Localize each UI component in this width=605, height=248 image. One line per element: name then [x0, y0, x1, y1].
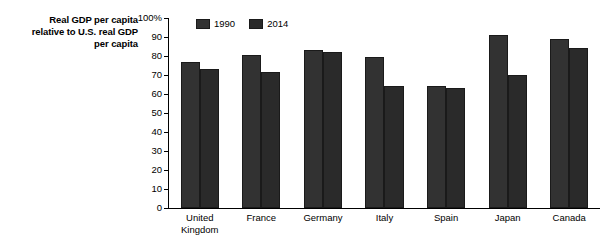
bar[interactable]: [304, 50, 323, 208]
x-axis-labels: UnitedKingdomFranceGermanyItalySpainJapa…: [169, 212, 600, 246]
x-axis-label: France: [231, 212, 293, 224]
chart-figure: Real GDP per capita relative to U.S. rea…: [0, 0, 605, 248]
bar[interactable]: [508, 75, 527, 208]
bar-group: [181, 18, 219, 208]
bar[interactable]: [242, 55, 261, 208]
bar[interactable]: [384, 86, 403, 208]
y-axis-tick-label: 60: [151, 89, 162, 99]
y-axis-tick-label: 80: [151, 51, 162, 61]
x-axis-label: Japan: [477, 212, 539, 224]
y-axis-tick: [164, 132, 168, 133]
y-axis-tick-label: 70: [151, 70, 162, 80]
y-axis-tick-label: 90: [151, 32, 162, 42]
x-axis-label: Italy: [354, 212, 416, 224]
y-axis-title-line-2: relative to U.S. real GDP: [8, 26, 138, 38]
y-axis-tick: [164, 113, 168, 114]
x-axis-label: Canada: [538, 212, 600, 224]
bar[interactable]: [550, 39, 569, 208]
x-axis-label: Spain: [415, 212, 477, 224]
y-axis-tick: [164, 189, 168, 190]
bar[interactable]: [569, 48, 588, 208]
x-axis-label-line: Italy: [354, 212, 416, 224]
x-axis-label-line: Japan: [477, 212, 539, 224]
x-axis-label: UnitedKingdom: [169, 212, 231, 236]
y-axis-tick: [164, 151, 168, 152]
bar[interactable]: [200, 69, 219, 208]
y-axis-tick: [164, 170, 168, 171]
y-axis-title-line-3: per capita: [8, 38, 138, 50]
plot-area: 0102030405060708090100%: [168, 18, 600, 208]
bar-group: [427, 18, 465, 208]
bar[interactable]: [181, 62, 200, 208]
y-axis-tick-label: 30: [151, 146, 162, 156]
y-axis-tick-label: 0: [157, 203, 162, 213]
y-axis-tick: [164, 75, 168, 76]
bar[interactable]: [365, 57, 384, 208]
x-axis-label-line: Canada: [538, 212, 600, 224]
bars-layer: [169, 18, 600, 208]
bar[interactable]: [323, 52, 342, 208]
x-axis-label-line: Spain: [415, 212, 477, 224]
x-axis-label-line: United: [169, 212, 231, 224]
x-axis-label-line: Kingdom: [169, 224, 231, 236]
y-axis-tick: [164, 56, 168, 57]
x-axis-line: [168, 208, 600, 209]
x-axis-label-line: Germany: [292, 212, 354, 224]
x-axis-label: Germany: [292, 212, 354, 224]
bar-group: [365, 18, 403, 208]
y-axis-tick: [164, 37, 168, 38]
y-axis-tick-label: 10: [151, 184, 162, 194]
y-axis-title-line-1: Real GDP per capita: [8, 14, 138, 26]
y-axis-tick: [164, 94, 168, 95]
y-axis-tick: [164, 208, 168, 209]
y-axis-tick-label: 40: [151, 127, 162, 137]
bar[interactable]: [427, 86, 446, 208]
y-axis-tick: [164, 18, 168, 19]
bar-group: [304, 18, 342, 208]
x-axis-label-line: France: [231, 212, 293, 224]
y-axis-title: Real GDP per capita relative to U.S. rea…: [8, 14, 138, 51]
bar[interactable]: [261, 72, 280, 208]
bar-group: [550, 18, 588, 208]
bar[interactable]: [446, 88, 465, 208]
bar[interactable]: [489, 35, 508, 208]
y-axis-tick-label: 50: [151, 108, 162, 118]
bar-group: [489, 18, 527, 208]
y-axis-tick-label: 100%: [138, 13, 162, 23]
bar-group: [242, 18, 280, 208]
y-axis-tick-label: 20: [151, 165, 162, 175]
